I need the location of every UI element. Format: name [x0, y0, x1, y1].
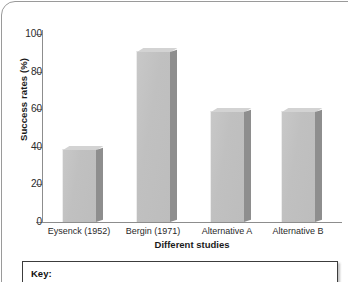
bar-alternative-a[interactable] — [210, 111, 244, 222]
y-tick-60: 60 — [0, 109, 42, 110]
y-tick-0: 0 — [0, 222, 42, 223]
y-tick-40: 40 — [0, 147, 42, 148]
x-axis-title: Different studies — [42, 239, 342, 250]
bar-side-face — [244, 110, 251, 222]
y-tick-20: 20 — [0, 184, 42, 185]
bar-bergin-1971[interactable] — [136, 51, 170, 222]
y-tick-label: 100 — [8, 29, 42, 39]
bar-alternative-b[interactable] — [281, 111, 315, 222]
bar-side-face — [315, 110, 322, 222]
y-tick-label: 60 — [8, 104, 42, 114]
y-axis-title: Success rates (%) — [18, 25, 29, 175]
key-panel: Key: — [22, 261, 338, 282]
bar-eysenck-1952[interactable] — [62, 149, 96, 222]
y-tick-100: 100 — [0, 34, 42, 35]
bar-chart: Success rates (%) 100 80 60 40 20 0 — [0, 0, 348, 250]
figure-container: Success rates (%) 100 80 60 40 20 0 — [0, 0, 348, 282]
bar-side-face — [96, 147, 103, 222]
y-axis-line — [42, 30, 43, 223]
bar-side-face — [170, 50, 177, 222]
y-tick-label: 40 — [8, 142, 42, 152]
y-tick-80: 80 — [0, 72, 42, 73]
y-tick-label: 20 — [8, 179, 42, 189]
x-tick-label-alternative-b: Alternative B — [255, 226, 341, 236]
x-axis-line — [42, 222, 342, 223]
y-tick-label: 80 — [8, 67, 42, 77]
key-panel-label: Key: — [31, 268, 52, 279]
